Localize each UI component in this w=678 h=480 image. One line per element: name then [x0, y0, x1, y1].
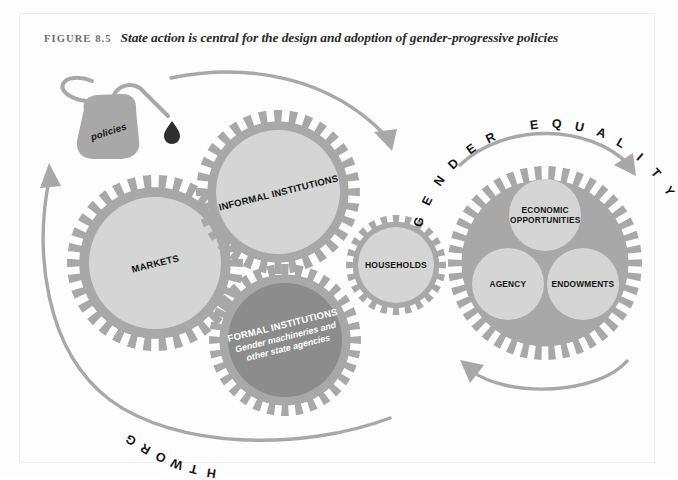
gear-households — [346, 215, 446, 315]
curved-arrow-top-icon-head — [374, 129, 397, 151]
curved-arrow-gender-equality-icon — [460, 133, 629, 165]
gear-hub-formal-institutions — [228, 283, 342, 397]
gear-group — [67, 110, 642, 416]
oil-drop-icon — [164, 121, 180, 144]
oil-can-group — [62, 78, 180, 159]
gear-hub-informal-institutions — [216, 130, 340, 254]
gear-informal-institutions — [196, 110, 360, 274]
outcome-circle-agency — [472, 248, 544, 320]
oil-can-handle — [62, 78, 92, 101]
oil-can-body — [77, 94, 139, 159]
gear-formal-institutions — [209, 264, 361, 416]
curved-arrow-growth-icon-head — [40, 163, 61, 188]
outcome-circle-economic-opportunities — [509, 179, 581, 251]
curved-arrow-feedback-icon-head — [460, 360, 484, 383]
curved-arrow-feedback-icon — [470, 361, 627, 389]
gear-hub-markets — [89, 197, 221, 329]
gear-hub-households — [358, 227, 434, 303]
outcome-circle-endowments — [547, 248, 619, 320]
